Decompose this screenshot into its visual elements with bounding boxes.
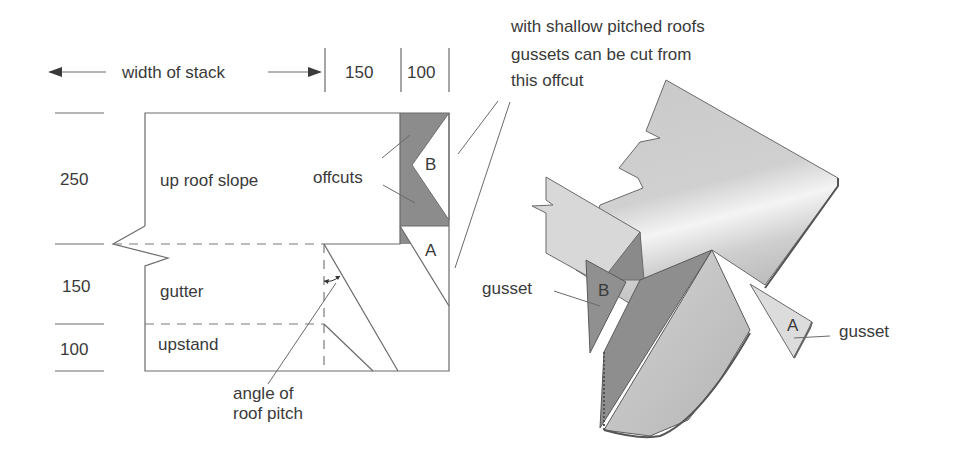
note-leader-2 [455, 102, 510, 268]
up-roof-slope-label: up roof slope [160, 171, 258, 190]
piece-a-edge [400, 226, 449, 306]
angle-label-line1: angle of [233, 384, 294, 403]
piece-a-label: A [425, 241, 437, 260]
gutter-label: gutter [160, 282, 204, 301]
upstand-label: upstand [158, 335, 219, 354]
dim-250-label: 250 [60, 170, 88, 189]
dim-150-side-label: 150 [62, 277, 90, 296]
gusset-b-letter: B [598, 281, 609, 300]
gusset-a-label: gusset [839, 322, 889, 341]
gusset-a-letter: A [787, 316, 799, 335]
note-line3: this offcut [511, 71, 584, 90]
note-leader-1 [458, 101, 498, 154]
gusset-b-label: gusset [482, 279, 532, 298]
width-of-stack-label: width of stack [121, 63, 225, 82]
note-line2: gussets can be cut from [511, 45, 691, 64]
flat-layout: up roof slope offcuts B A gutter upstand… [113, 113, 449, 423]
cut-line-diagonal [324, 244, 398, 371]
angle-label-line2: roof pitch [233, 404, 303, 423]
left-dimensions: 250 150 100 [55, 113, 104, 371]
cut-line-upstand [324, 324, 373, 371]
piece-b-label: B [425, 155, 436, 174]
dim-100-label: 100 [407, 63, 435, 82]
width-dimension: width of stack 150 100 [48, 48, 449, 92]
angle-leader [268, 283, 336, 384]
dim-100-side-label: 100 [60, 340, 88, 359]
assembled-flashing: B gusset A gusset [482, 80, 889, 437]
layout-outline [113, 113, 449, 371]
dim-150-label: 150 [345, 63, 373, 82]
note-line1: with shallow pitched roofs [510, 17, 705, 36]
arrow-right-icon [308, 67, 322, 77]
angle-arrow-icon [324, 279, 329, 284]
arrow-left-icon [48, 67, 62, 77]
flashing-diagram: width of stack 150 100 250 150 100 [0, 0, 954, 460]
gusset-a-shape [750, 284, 812, 358]
offcuts-label: offcuts [313, 168, 363, 187]
